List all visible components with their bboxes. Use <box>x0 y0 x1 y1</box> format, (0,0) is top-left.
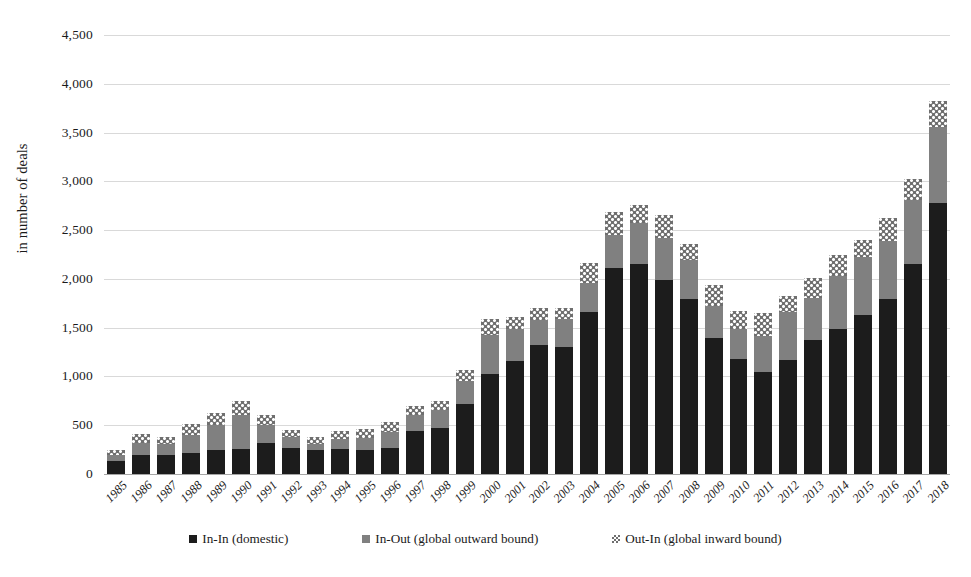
bar-segment-in-in[interactable] <box>107 461 125 474</box>
bar-segment-out-in[interactable] <box>904 179 922 199</box>
bar-segment-out-in[interactable] <box>456 370 474 382</box>
bar-stack[interactable] <box>530 35 548 474</box>
bar-segment-in-out[interactable] <box>232 415 250 449</box>
bar-segment-out-in[interactable] <box>804 278 822 298</box>
bar-stack[interactable] <box>655 35 673 474</box>
bar-segment-in-out[interactable] <box>580 283 598 312</box>
bar-segment-in-in[interactable] <box>456 404 474 474</box>
bar-segment-out-in[interactable] <box>754 313 772 336</box>
bar-segment-in-out[interactable] <box>381 432 399 449</box>
bar-segment-out-in[interactable] <box>381 422 399 432</box>
bar-stack[interactable] <box>879 35 897 474</box>
bar-segment-in-out[interactable] <box>929 127 947 203</box>
bar-segment-in-in[interactable] <box>257 443 275 474</box>
bar-segment-out-in[interactable] <box>630 205 648 224</box>
bar-segment-out-in[interactable] <box>530 308 548 320</box>
bar-stack[interactable] <box>431 35 449 474</box>
bar-segment-out-in[interactable] <box>207 413 225 426</box>
bar-segment-in-in[interactable] <box>630 264 648 474</box>
bar-segment-out-in[interactable] <box>605 212 623 235</box>
bar-stack[interactable] <box>705 35 723 474</box>
bar-segment-in-in[interactable] <box>207 450 225 474</box>
bar-segment-out-in[interactable] <box>307 437 325 444</box>
bar-stack[interactable] <box>381 35 399 474</box>
bar-segment-in-out[interactable] <box>356 438 374 450</box>
bar-segment-in-in[interactable] <box>481 374 499 474</box>
bar-segment-in-out[interactable] <box>331 439 349 449</box>
bar-segment-in-in[interactable] <box>680 299 698 474</box>
bar-stack[interactable] <box>730 35 748 474</box>
bar-segment-in-out[interactable] <box>879 241 897 300</box>
bar-segment-in-out[interactable] <box>605 235 623 268</box>
bar-segment-in-out[interactable] <box>307 444 325 450</box>
bar-segment-in-out[interactable] <box>132 443 150 456</box>
legend-item-in-out[interactable]: In-Out (global outward bound) <box>362 531 538 547</box>
bar-segment-in-in[interactable] <box>705 338 723 474</box>
bar-stack[interactable] <box>630 35 648 474</box>
bar-segment-out-in[interactable] <box>779 296 797 312</box>
bar-segment-in-in[interactable] <box>182 453 200 474</box>
bar-segment-in-out[interactable] <box>257 425 275 443</box>
bar-segment-in-out[interactable] <box>157 444 175 455</box>
legend-item-out-in[interactable]: Out-In (global inward bound) <box>612 531 781 547</box>
bar-segment-in-in[interactable] <box>580 312 598 474</box>
bar-segment-out-in[interactable] <box>506 317 524 329</box>
bar-stack[interactable] <box>779 35 797 474</box>
bar-segment-in-out[interactable] <box>655 238 673 280</box>
bar-stack[interactable] <box>804 35 822 474</box>
legend-item-in-in[interactable]: In-In (domestic) <box>189 531 288 547</box>
bar-segment-out-in[interactable] <box>157 437 175 444</box>
bar-segment-out-in[interactable] <box>655 215 673 238</box>
bar-segment-in-in[interactable] <box>331 449 349 474</box>
bar-segment-in-in[interactable] <box>555 347 573 474</box>
bar-segment-in-in[interactable] <box>854 315 872 474</box>
bar-segment-in-in[interactable] <box>730 359 748 474</box>
bar-segment-out-in[interactable] <box>929 101 947 126</box>
bar-segment-in-out[interactable] <box>506 329 524 361</box>
bar-segment-out-in[interactable] <box>481 319 499 335</box>
bar-segment-in-in[interactable] <box>655 280 673 474</box>
bar-segment-in-out[interactable] <box>282 437 300 448</box>
bar-stack[interactable] <box>854 35 872 474</box>
bar-stack[interactable] <box>406 35 424 474</box>
bar-segment-out-in[interactable] <box>680 244 698 261</box>
bar-segment-in-out[interactable] <box>804 298 822 340</box>
bar-segment-in-out[interactable] <box>481 335 499 374</box>
bar-segment-out-in[interactable] <box>730 311 748 329</box>
bar-segment-in-out[interactable] <box>754 336 772 371</box>
bar-segment-in-in[interactable] <box>829 329 847 474</box>
bar-segment-out-in[interactable] <box>555 308 573 319</box>
bar-stack[interactable] <box>580 35 598 474</box>
bar-segment-out-in[interactable] <box>879 218 897 240</box>
bar-segment-in-out[interactable] <box>530 320 548 345</box>
bar-stack[interactable] <box>555 35 573 474</box>
bar-segment-out-in[interactable] <box>705 285 723 306</box>
bar-segment-in-in[interactable] <box>530 345 548 474</box>
bar-segment-in-out[interactable] <box>555 319 573 347</box>
bar-stack[interactable] <box>829 35 847 474</box>
bar-stack[interactable] <box>207 35 225 474</box>
bar-segment-in-in[interactable] <box>232 449 250 474</box>
bar-segment-in-out[interactable] <box>431 410 449 429</box>
bar-segment-out-in[interactable] <box>132 434 150 443</box>
bar-segment-out-in[interactable] <box>580 263 598 283</box>
bar-segment-in-out[interactable] <box>730 329 748 359</box>
bar-segment-in-in[interactable] <box>157 455 175 475</box>
bar-segment-in-in[interactable] <box>754 372 772 474</box>
bar-segment-out-in[interactable] <box>182 424 200 435</box>
bar-stack[interactable] <box>157 35 175 474</box>
bar-stack[interactable] <box>356 35 374 474</box>
bar-segment-in-in[interactable] <box>406 431 424 474</box>
bar-segment-in-out[interactable] <box>705 306 723 338</box>
bar-segment-out-in[interactable] <box>406 406 424 416</box>
bar-stack[interactable] <box>307 35 325 474</box>
bar-segment-in-out[interactable] <box>182 435 200 453</box>
bar-segment-in-in[interactable] <box>506 361 524 474</box>
bar-stack[interactable] <box>182 35 200 474</box>
bar-stack[interactable] <box>605 35 623 474</box>
bar-segment-out-in[interactable] <box>232 401 250 415</box>
bar-segment-in-out[interactable] <box>630 223 648 264</box>
bar-segment-in-in[interactable] <box>431 428 449 474</box>
bar-segment-in-in[interactable] <box>356 450 374 474</box>
bar-segment-in-in[interactable] <box>929 203 947 474</box>
